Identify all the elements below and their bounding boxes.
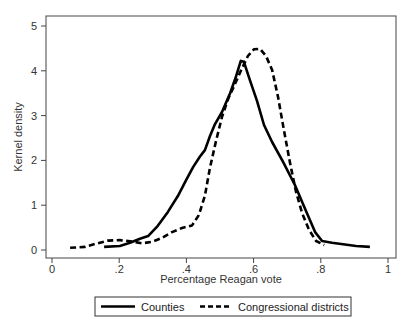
legend-label-districts: Congressional districts (238, 301, 349, 313)
legend-label-counties: Counties (141, 301, 185, 313)
y-axis: 012345 (31, 20, 46, 256)
plot-frame (46, 16, 396, 258)
x-tick-label: 0 (49, 263, 55, 275)
y-tick-label: 3 (31, 110, 37, 122)
kernel-density-chart: 012345 0.2.4.6.81 Percentage Reagan vote… (0, 0, 415, 333)
y-tick-label: 4 (31, 65, 37, 77)
y-tick-label: 2 (31, 154, 37, 166)
x-tick-label: .2 (115, 263, 124, 275)
y-tick-label: 1 (31, 199, 37, 211)
y-tick-label: 0 (31, 244, 37, 256)
y-axis-title: Kernel density (12, 102, 24, 172)
legend: Counties Congressional districts (95, 297, 351, 316)
x-tick-label: 1 (385, 263, 391, 275)
y-tick-label: 5 (31, 20, 37, 32)
x-axis-title: Percentage Reagan vote (160, 273, 282, 285)
x-tick-label: .8 (316, 263, 325, 275)
